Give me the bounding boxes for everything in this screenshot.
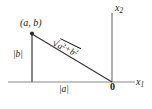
- x2-axis-label-subscript: 2: [119, 7, 123, 15]
- x1-axis-label: x1: [136, 77, 144, 89]
- math-figure-right-triangle: (a, b) |b| |a| 0 x2 x1 √a2+b2: [0, 0, 152, 109]
- x1-axis-label-subscript: 1: [140, 81, 144, 89]
- x2-axis-label: x2: [115, 3, 123, 15]
- vertex-point-marker: [30, 31, 34, 35]
- origin-label: 0: [110, 82, 115, 92]
- vertical-leg-label: |b|: [13, 50, 23, 60]
- vertex-coordinate-label: (a, b): [20, 18, 42, 28]
- horizontal-leg-label: |a|: [59, 85, 69, 95]
